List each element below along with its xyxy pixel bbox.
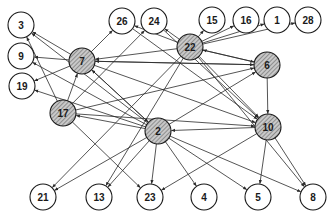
node-label: 9 [18, 51, 24, 62]
edge-22-to-13 [106, 58, 183, 185]
node-label: 21 [37, 192, 49, 203]
node-label: 3 [18, 20, 24, 31]
node-6: 6 [254, 52, 280, 78]
node-2: 2 [145, 118, 171, 144]
node-4: 4 [191, 184, 217, 210]
edge-17-to-7 [68, 74, 78, 101]
edge-2-to-4 [165, 142, 196, 186]
node-label: 6 [264, 60, 270, 71]
node-label: 23 [144, 192, 156, 203]
node-label: 22 [184, 42, 196, 53]
edge-22-to-15 [198, 31, 203, 37]
node-9: 9 [8, 43, 34, 69]
node-5: 5 [245, 184, 271, 210]
directed-graph: 326241516128972261917210211323458 [0, 0, 333, 217]
edge-10-to-23 [162, 134, 257, 191]
node-17: 17 [50, 100, 76, 126]
node-21: 21 [30, 184, 56, 210]
node-label: 4 [201, 192, 207, 203]
edge-6-to-7 [96, 61, 255, 64]
edge-7-to-3 [33, 32, 71, 55]
node-label: 16 [240, 15, 252, 26]
node-label: 17 [57, 108, 69, 119]
node-19: 19 [9, 73, 35, 99]
node-label: 19 [16, 81, 28, 92]
edge-2-to-17 [76, 116, 145, 129]
node-26: 26 [109, 8, 135, 34]
node-label: 10 [262, 122, 274, 133]
edge-2-to-7 [92, 70, 148, 122]
edge-2-to-23 [152, 144, 157, 184]
node-label: 8 [310, 192, 316, 203]
node-label: 1 [274, 15, 280, 26]
node-7: 7 [69, 48, 95, 74]
node-3: 3 [8, 12, 34, 38]
node-label: 7 [79, 56, 85, 67]
edge-10-to-8 [275, 138, 306, 186]
edge-22-to-7 [95, 49, 177, 60]
node-label: 2 [155, 126, 161, 137]
node-label: 5 [255, 192, 261, 203]
edge-6-to-10 [267, 78, 268, 114]
edge-2-to-8 [170, 136, 301, 192]
node-28: 28 [295, 7, 321, 33]
edge-7-to-26 [91, 31, 112, 52]
node-1: 1 [264, 7, 290, 33]
node-22: 22 [177, 34, 203, 60]
node-label: 24 [148, 16, 160, 27]
node-24: 24 [141, 8, 167, 34]
node-label: 26 [116, 16, 128, 27]
node-8: 8 [300, 184, 326, 210]
node-label: 13 [93, 192, 105, 203]
node-label: 28 [302, 15, 314, 26]
edge-2-to-21 [55, 138, 147, 191]
node-23: 23 [137, 184, 163, 210]
node-10: 10 [255, 114, 281, 140]
node-15: 15 [199, 7, 225, 33]
edge-6-to-22 [203, 50, 254, 62]
edge-2-to-6 [169, 72, 255, 124]
node-16: 16 [233, 7, 259, 33]
edge-22-to-10 [199, 56, 259, 117]
edge-10-to-2 [172, 128, 256, 131]
node-label: 15 [206, 15, 218, 26]
nodes-layer: 326241516128972261917210211323458 [8, 7, 326, 210]
edge-7-to-10 [94, 65, 255, 122]
node-13: 13 [86, 184, 112, 210]
